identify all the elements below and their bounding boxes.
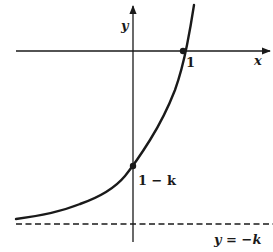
x-intercept-point [180, 48, 186, 54]
x-axis-label: x [253, 53, 262, 68]
x-intercept-label: 1 [186, 55, 195, 70]
function-graph: y x 1 1 − k y = −k [0, 0, 273, 252]
asymptote-label: y = −k [213, 232, 261, 247]
y-intercept-label: 1 − k [138, 173, 177, 188]
y-axis-label: y [120, 18, 130, 33]
y-intercept-point [130, 163, 136, 169]
